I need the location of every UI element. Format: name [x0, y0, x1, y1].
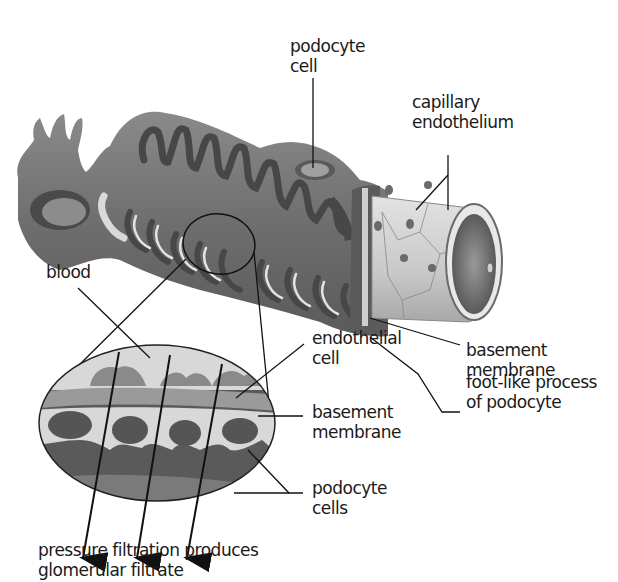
label-foot-like-process: foot-like process of podocyte: [466, 372, 597, 412]
label-blood: blood: [46, 262, 91, 282]
label-podocyte-cell: podocyte cell: [290, 36, 365, 76]
label-capillary-endothelium: capillary endothelium: [412, 92, 514, 132]
diagram-illustration: [0, 0, 618, 582]
label-podocyte-cells: podocyte cells: [312, 478, 387, 518]
diagram-canvas: podocyte cell capillary endothelium bloo…: [0, 0, 618, 582]
capillary-tube: [350, 181, 502, 329]
caption-pressure-filtration: pressure filtration produces glomerular …: [38, 540, 258, 580]
label-basement-membrane-inset: basement membrane: [312, 402, 401, 442]
label-endothelial-cell: endothelial cell: [312, 328, 401, 368]
inset-cross-section: [30, 340, 290, 510]
